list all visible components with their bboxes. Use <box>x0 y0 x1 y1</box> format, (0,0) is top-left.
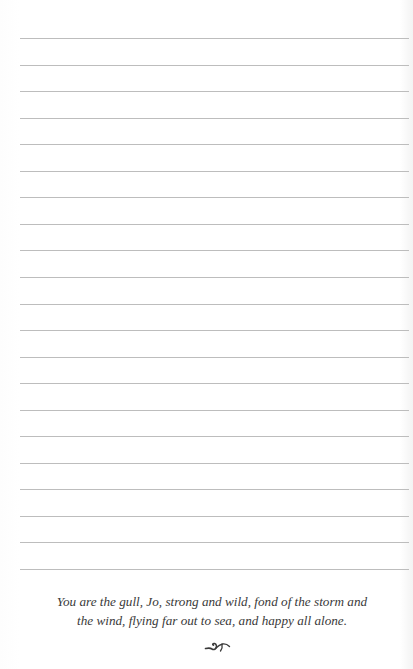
ruled-line <box>20 410 409 411</box>
ruled-line <box>20 250 409 251</box>
journal-page: You are the gull, Jo, strong and wild, f… <box>0 0 413 669</box>
ruled-line <box>20 463 409 464</box>
ruled-line <box>20 65 409 66</box>
ruled-line <box>20 436 409 437</box>
flourish-ornament-icon <box>204 639 232 653</box>
ruled-line <box>20 489 409 490</box>
ruled-line <box>20 304 409 305</box>
ruled-line <box>20 330 409 331</box>
ruled-line <box>20 197 409 198</box>
ruled-line <box>20 171 409 172</box>
ruled-line <box>20 277 409 278</box>
quote-line-2: the wind, flying far out to sea, and hap… <box>0 611 413 630</box>
ruled-line <box>20 91 409 92</box>
ruled-line <box>20 542 409 543</box>
ruled-line <box>20 569 409 570</box>
ruled-line <box>20 516 409 517</box>
quote-block: You are the gull, Jo, strong and wild, f… <box>0 592 413 630</box>
ruled-line <box>20 118 409 119</box>
quote-line-1: You are the gull, Jo, strong and wild, f… <box>0 592 413 611</box>
ruled-line <box>20 383 409 384</box>
ruled-writing-lines <box>20 0 409 600</box>
ruled-line <box>20 144 409 145</box>
ruled-line <box>20 38 409 39</box>
ruled-line <box>20 357 409 358</box>
ruled-line <box>20 224 409 225</box>
